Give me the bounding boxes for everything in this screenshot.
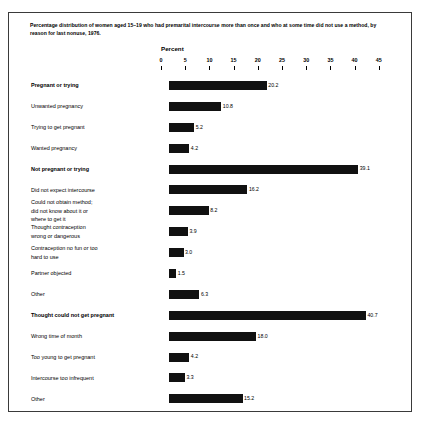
- axis-title-percent: Percent: [161, 45, 184, 52]
- bar-track: 10.8: [169, 96, 411, 117]
- bar-value-label: 4.2: [191, 146, 198, 151]
- x-axis-tick-label: 10: [206, 57, 212, 63]
- bar-row: Contraception no fun or too hard to use3…: [9, 242, 411, 263]
- bar-row-label-text: Wrong time of month: [31, 332, 82, 340]
- bar-row: Thought could not get pregnant40.7: [9, 305, 411, 326]
- bar-row: Not pregnant or trying39.1: [9, 159, 411, 180]
- bar-row: Other6.3: [9, 284, 411, 305]
- chart-figure-frame: Percentage distribution of women aged 15…: [8, 12, 412, 412]
- bar-row-label-text: Unwanted pregnancy: [31, 102, 83, 110]
- bar-row-label: Wrong time of month: [31, 326, 159, 347]
- bar-track: 5.2: [169, 117, 411, 138]
- bar-value-label: 4.2: [191, 354, 198, 359]
- bar-row: Trying to get pregnant5.2: [9, 117, 411, 138]
- bar: [169, 290, 199, 299]
- bar-track: 16.2: [169, 179, 411, 200]
- bar-row-label-text: Other: [31, 290, 45, 298]
- bar-row: Pregnant or trying20.2: [9, 75, 411, 96]
- chart-title: Percentage distribution of women aged 15…: [30, 21, 392, 38]
- bar-row-label: Did not expect intercourse: [31, 179, 159, 200]
- bar-row: Did not expect intercourse16.2: [9, 179, 411, 200]
- x-axis-tick-label: 30: [303, 57, 309, 63]
- bar-track: 3.0: [169, 242, 411, 263]
- bar-track: 15.2: [169, 388, 411, 409]
- x-axis-tick-mark: [209, 66, 210, 70]
- bar-row-label-text: Too young to get pregnant: [31, 353, 95, 361]
- bar: [169, 394, 243, 403]
- bar-row-label: Intercourse too infrequent: [31, 367, 159, 388]
- bar-row-label: Pregnant or trying: [31, 75, 159, 96]
- bar-value-label: 3.9: [189, 229, 196, 234]
- bar-value-label: 40.7: [367, 313, 377, 318]
- x-axis-tick-mark: [330, 66, 331, 70]
- x-axis-tick-mark: [185, 66, 186, 70]
- bar-value-label: 3.0: [185, 250, 192, 255]
- bar-value-label: 1.5: [178, 271, 185, 276]
- bar-row-label: Other: [31, 284, 159, 305]
- bar-row-label-text: Intercourse too infrequent: [31, 374, 94, 382]
- bar-row: Partner objected1.5: [9, 263, 411, 284]
- bar-track: 40.7: [169, 305, 411, 326]
- x-axis-tick-mark: [306, 66, 307, 70]
- bar-row-label: Thought contraception wrong or dangerous: [31, 221, 159, 242]
- bar-row-label-text: Contraception no fun or too hard to use: [31, 244, 98, 261]
- x-axis-tick-label: 35: [327, 57, 333, 63]
- bar: [169, 269, 176, 278]
- x-axis: 051015202530354045: [9, 57, 411, 73]
- bar: [169, 311, 366, 320]
- bar-value-label: 18.0: [258, 334, 268, 339]
- bar-row-label: Partner objected: [31, 263, 159, 284]
- bar-track: 8.2: [169, 200, 411, 221]
- x-axis-tick-label: 0: [160, 57, 163, 63]
- x-axis-tick-mark: [234, 66, 235, 70]
- bar-row-label: Too young to get pregnant: [31, 347, 159, 368]
- bar-rows: Pregnant or trying20.2Unwanted pregnancy…: [9, 75, 411, 409]
- bar-row: Intercourse too infrequent3.3: [9, 367, 411, 388]
- bar-row: Thought contraception wrong or dangerous…: [9, 221, 411, 242]
- bar-row-label: Could not obtain method; did not know ab…: [31, 200, 159, 221]
- bar-row-label-text: Could not obtain method; did not know ab…: [31, 198, 92, 223]
- bar: [169, 185, 247, 194]
- x-axis-tick-mark: [355, 66, 356, 70]
- bar: [169, 165, 358, 174]
- x-axis-tick-mark: [282, 66, 283, 70]
- bar-value-label: 20.2: [268, 83, 278, 88]
- bar-track: 6.3: [169, 284, 411, 305]
- bar-row-label: Not pregnant or trying: [31, 159, 159, 180]
- bar-row-label: Unwanted pregnancy: [31, 96, 159, 117]
- bar-row-label: Contraception no fun or too hard to use: [31, 242, 159, 263]
- x-axis-tick-label: 45: [376, 57, 382, 63]
- bar: [169, 102, 221, 111]
- x-axis-tick-label: 20: [255, 57, 261, 63]
- bar-row-label-text: Trying to get pregnant: [31, 123, 85, 131]
- bar-row: Wrong time of month18.0: [9, 326, 411, 347]
- bar-row-label: Trying to get pregnant: [31, 117, 159, 138]
- bar-row: Other15.2: [9, 388, 411, 409]
- bar-track: 4.2: [169, 138, 411, 159]
- bar-track: 3.9: [169, 221, 411, 242]
- bar-track: 18.0: [169, 326, 411, 347]
- x-axis-tick-label: 5: [184, 57, 187, 63]
- bar-value-label: 3.3: [186, 375, 193, 380]
- bar: [169, 353, 189, 362]
- bar-value-label: 10.8: [223, 104, 233, 109]
- x-axis-tick-mark: [379, 66, 380, 70]
- bar: [169, 227, 188, 236]
- bar: [169, 332, 256, 341]
- x-axis-tick-label: 15: [231, 57, 237, 63]
- bar-row-label-text: Thought could not get pregnant: [31, 311, 114, 319]
- bar-track: 1.5: [169, 263, 411, 284]
- bar-value-label: 39.1: [360, 166, 370, 171]
- bar-value-label: 15.2: [244, 396, 254, 401]
- bar: [169, 373, 185, 382]
- bar-track: 20.2: [169, 75, 411, 96]
- bar: [169, 123, 194, 132]
- bar-row-label-text: Thought contraception wrong or dangerous: [31, 223, 86, 240]
- bar: [169, 81, 267, 90]
- bar-row: Unwanted pregnancy10.8: [9, 96, 411, 117]
- bar: [169, 248, 184, 257]
- bar-row: Wanted pregnancy4.2: [9, 138, 411, 159]
- bar-row-label-text: Wanted pregnancy: [31, 144, 77, 152]
- x-axis-tick-mark: [258, 66, 259, 70]
- bar-row-label-text: Not pregnant or trying: [31, 165, 89, 173]
